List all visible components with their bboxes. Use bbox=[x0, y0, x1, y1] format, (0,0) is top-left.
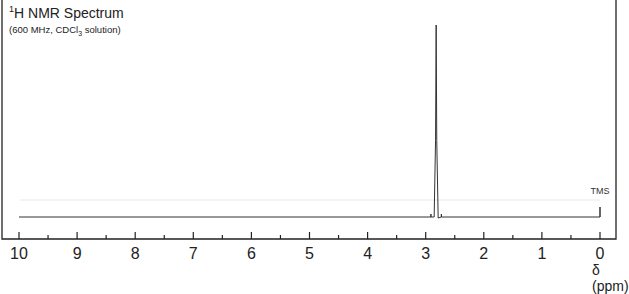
spectrum-trace bbox=[19, 25, 600, 218]
x-tick-label: 0 bbox=[596, 245, 605, 263]
x-axis-label: δ (ppm) bbox=[592, 262, 629, 294]
x-tick-label: 6 bbox=[247, 245, 256, 263]
tms-annotation: TMS bbox=[591, 186, 610, 196]
x-tick-label: 3 bbox=[421, 245, 430, 263]
x-tick-label: 8 bbox=[131, 245, 140, 263]
chart-subtitle: (600 MHz, CDCl3 solution) bbox=[9, 24, 121, 37]
x-tick-label: 1 bbox=[537, 245, 546, 263]
x-tick-label: 5 bbox=[305, 245, 314, 263]
x-tick-label: 2 bbox=[479, 245, 488, 263]
x-axis-ticks bbox=[19, 232, 600, 239]
x-tick-label: 10 bbox=[10, 245, 28, 263]
x-tick-label: 4 bbox=[363, 245, 372, 263]
x-tick-label: 9 bbox=[73, 245, 82, 263]
x-tick-label: 7 bbox=[189, 245, 198, 263]
chart-title: 1H NMR Spectrum bbox=[9, 4, 124, 21]
